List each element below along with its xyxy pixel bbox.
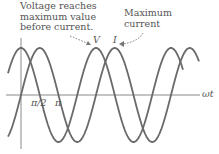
voltage-note-line1: Voltage reaches [20, 1, 97, 12]
current-symbol: I [113, 35, 117, 46]
tick-pi: π [55, 98, 61, 109]
current-arrowhead-icon [119, 41, 124, 47]
voltage-note: Voltage reaches maximum value before cur… [20, 1, 97, 33]
tick-half-pi: π/2 [31, 98, 47, 109]
current-note: Maximum current [124, 8, 172, 29]
current-note-line2: current [124, 19, 172, 30]
current-note-line1: Maximum [124, 8, 172, 19]
voltage-arrow [70, 36, 89, 44]
x-axis-label: ωt [202, 89, 214, 100]
current-arrow [122, 33, 143, 44]
voltage-note-line3: before current. [20, 22, 97, 33]
voltage-symbol: V [93, 35, 100, 46]
